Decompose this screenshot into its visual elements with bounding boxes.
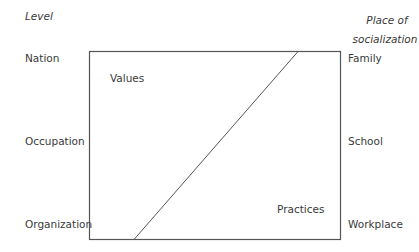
diagonal-divider bbox=[134, 52, 298, 240]
region-values: Values bbox=[110, 72, 144, 84]
diagram-graphic bbox=[0, 0, 419, 252]
region-practices: Practices bbox=[277, 203, 324, 215]
